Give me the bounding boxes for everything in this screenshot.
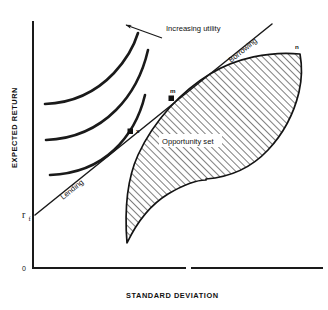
opportunity-set-fill	[126, 53, 301, 243]
point-marker-m	[169, 96, 175, 102]
indifference-curve-3	[45, 33, 138, 104]
point-label-m: m	[170, 87, 176, 94]
indifference-curves-group	[45, 33, 148, 175]
point-label-n: n	[295, 43, 299, 50]
diagram-canvas: EXPECTED RETURN STANDARD DEVIATION 0 r f…	[0, 0, 328, 310]
indifference-curve-1	[50, 95, 145, 175]
opportunity-set-region	[126, 53, 301, 243]
opportunity-set-label: Opportunity set	[162, 137, 214, 146]
y-axis-label: EXPECTED RETURN	[10, 87, 19, 168]
increasing-utility-arrow-line	[126, 25, 162, 38]
point-marker-x	[128, 129, 134, 135]
x-axis-label: STANDARD DEVIATION	[126, 291, 219, 300]
increasing-utility-arrow	[126, 25, 162, 38]
risk-free-rate-symbol: r	[22, 209, 26, 220]
capital-market-line-diagram: EXPECTED RETURN STANDARD DEVIATION 0 r f…	[0, 0, 328, 310]
risk-free-rate-subscript: f	[29, 215, 32, 222]
increasing-utility-label: Increasing utility	[166, 24, 221, 33]
lending-label: Lending	[59, 178, 86, 202]
origin-label: 0	[22, 265, 26, 272]
point-label-x: x	[136, 127, 140, 134]
